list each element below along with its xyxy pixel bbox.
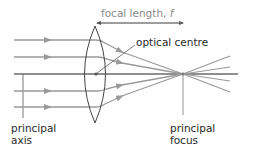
principal-axis-label: principal axis (11, 122, 56, 146)
principal-focus-point (182, 73, 185, 76)
optical-centre-pointer (94, 45, 135, 76)
principal-axis-label-line1: principal (11, 122, 56, 134)
principal-focus-label-line2: focus (170, 134, 215, 146)
focal-symbol: f (170, 7, 174, 19)
optical-centre-label: optical centre (136, 36, 208, 48)
principal-focus-label: principal focus (170, 122, 215, 146)
principal-focus-label-line1: principal (170, 122, 215, 134)
focal-length-text: focal length, (101, 7, 170, 19)
focal-length-label: focal length, f (101, 7, 173, 19)
principal-axis-label-line2: axis (11, 134, 56, 146)
